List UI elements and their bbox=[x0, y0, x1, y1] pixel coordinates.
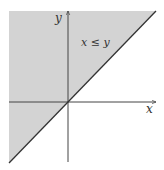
x-axis-label: x bbox=[146, 102, 153, 116]
y-axis-label: y bbox=[54, 11, 62, 25]
region-label: x ≤ y bbox=[81, 36, 110, 49]
inequality-diagram: y x x ≤ y bbox=[0, 0, 164, 170]
